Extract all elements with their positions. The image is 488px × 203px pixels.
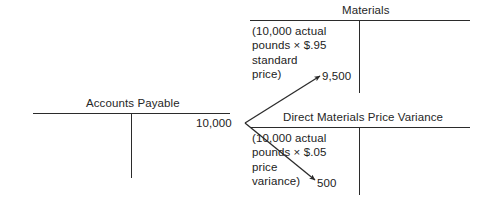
flow-arrow-to-materials [245, 76, 320, 123]
flow-arrow-to-price-variance [245, 123, 315, 180]
flow-arrows [0, 0, 488, 203]
t-account-diagram: Materials (10,000 actual pounds × $.95 s… [0, 0, 488, 203]
